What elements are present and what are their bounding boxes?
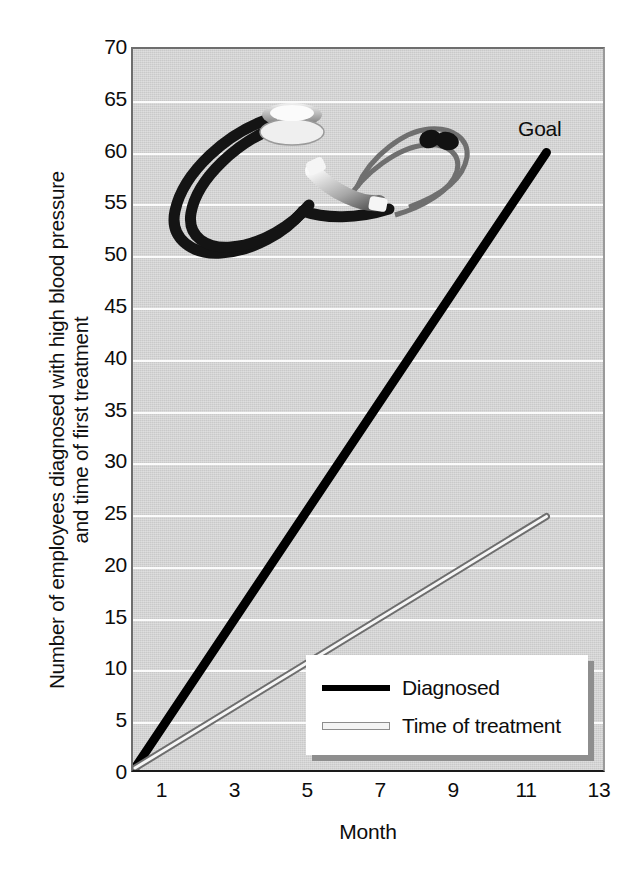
legend-swatch-time-of-treatment [320, 722, 392, 730]
y-tick-60: 60 [81, 139, 127, 163]
x-tick-5: 5 [281, 778, 333, 802]
legend-label-time-of-treatment: Time of treatment [392, 714, 561, 738]
y-tick-25: 25 [81, 501, 127, 525]
y-tick-0: 0 [81, 760, 127, 784]
legend-item-time-of-treatment: Time of treatment [320, 707, 578, 745]
x-axis-tick-labels: 1 3 5 7 9 11 13 [131, 778, 605, 808]
y-tick-15: 15 [81, 605, 127, 629]
x-tick-13: 13 [573, 778, 625, 802]
goal-annotation: Goal [518, 117, 562, 141]
y-tick-20: 20 [81, 553, 127, 577]
x-tick-9: 9 [427, 778, 479, 802]
x-tick-11: 11 [500, 778, 552, 802]
y-axis-tick-labels: 70 65 60 55 50 45 40 35 30 25 20 15 10 5… [77, 47, 127, 772]
legend-swatch-diagnosed [320, 685, 392, 691]
y-tick-45: 45 [81, 294, 127, 318]
y-tick-70: 70 [81, 35, 127, 59]
y-tick-10: 10 [81, 656, 127, 680]
y-axis-title-line1: Number of employees diagnosed with high … [45, 171, 69, 689]
y-tick-50: 50 [81, 242, 127, 266]
legend-label-diagnosed: Diagnosed [392, 676, 500, 700]
x-tick-7: 7 [354, 778, 406, 802]
y-tick-35: 35 [81, 398, 127, 422]
legend-item-diagnosed: Diagnosed [320, 669, 578, 707]
y-tick-5: 5 [81, 708, 127, 732]
y-tick-65: 65 [81, 87, 127, 111]
chart-figure: Number of employees diagnosed with high … [0, 0, 641, 874]
x-axis-title: Month [131, 820, 605, 844]
y-tick-40: 40 [81, 346, 127, 370]
x-tick-3: 3 [208, 778, 260, 802]
y-tick-30: 30 [81, 449, 127, 473]
plot-area: Goal Diagnosed Time of treatment [131, 47, 605, 772]
legend: Diagnosed Time of treatment [306, 655, 588, 755]
x-tick-1: 1 [136, 778, 188, 802]
y-tick-55: 55 [81, 190, 127, 214]
